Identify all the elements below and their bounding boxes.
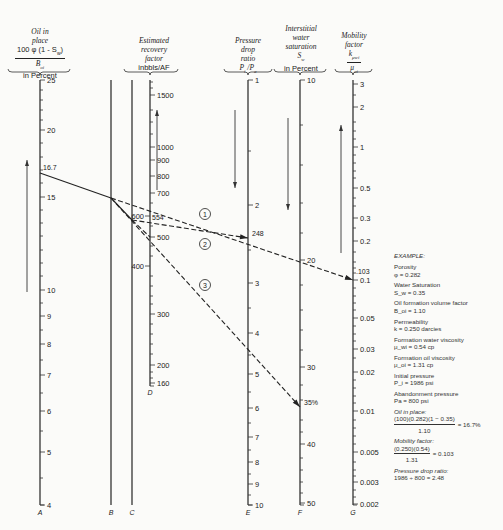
tick-label: 20 [307, 256, 315, 265]
tick-label: 20 [47, 126, 55, 135]
example-item-value: μ_wi = 0.54 cp [394, 343, 502, 350]
tick-label: 1500 [157, 91, 174, 100]
tick-label: 0.2 [360, 237, 370, 246]
tick-label: 4 [255, 329, 259, 338]
example-item-label: Formation oil viscosity [394, 354, 502, 361]
tick-label: 15 [47, 193, 55, 202]
calc-fraction: (100)(0.282)(1 − 0.35) 1.10 [394, 415, 455, 434]
tick-label: 25 [47, 76, 55, 85]
tick-label: 0.02 [360, 368, 375, 377]
tick-label: 5 [255, 370, 259, 379]
tick-label: 1000 [157, 143, 174, 152]
tick-label: 0.5 [360, 184, 370, 193]
calc-fraction: (0.250)(0.54) 1.31 [394, 445, 430, 464]
calc-result: = 16.7% [458, 421, 481, 428]
marked-value-label: .103 [356, 268, 370, 275]
example-item: Porosityφ = 0.282 [394, 263, 502, 278]
tick-label: 0.3 [360, 214, 370, 223]
tick-label: 500 [157, 233, 170, 242]
example-item-value: k = 0.250 darcies [394, 325, 502, 332]
example-title: EXAMPLE: [394, 252, 502, 259]
arrowhead-icon [240, 234, 248, 239]
arrow-down-icon [286, 204, 290, 210]
example-item: Initial pressureP_i = 1986 psi [394, 372, 502, 387]
example-line-3 [111, 198, 300, 407]
marked-value-label: 35% [304, 399, 318, 406]
example-item-value: Pa = 800 psi [394, 397, 502, 404]
tick-label: 900 [157, 156, 170, 165]
tick-label: 800 [157, 172, 170, 181]
axis-letter-d: D [147, 389, 152, 396]
tick-label: 0.01 [360, 407, 375, 416]
tick-label: 0.002 [360, 500, 379, 509]
example-item-label: Porosity [394, 263, 502, 270]
tick-label: 0.05 [360, 314, 375, 323]
pressure-calc: Pressure drop ratio: 1986 ÷ 800 = 2.48 [394, 467, 502, 482]
example-line-1 [111, 198, 353, 280]
axis-letter-b: B [109, 509, 114, 516]
tick-label: 0.005 [360, 448, 379, 457]
calc-value: 1986 ÷ 800 = 2.48 [394, 474, 502, 481]
example-item: Permeabilityk = 0.250 darcies [394, 318, 502, 333]
header-brace [335, 69, 372, 75]
mobility-calc: Mobility factor: (0.250)(0.54) 1.31 = 0.… [394, 437, 502, 463]
calc-label: Mobility factor: [394, 437, 502, 444]
header-braces [8, 69, 372, 75]
header-brace [224, 69, 272, 75]
tick-label: 30 [307, 363, 315, 372]
example-item: Water SaturationS_w = 0.35 [394, 281, 502, 296]
tick-label: 0.03 [360, 345, 375, 354]
example-item-label: Abandonment pressure [394, 390, 502, 397]
marked-value-label: 248 [252, 230, 264, 237]
tick-label: 50 [307, 499, 315, 508]
direction-arrows-group [25, 110, 343, 292]
example-item-value: φ = 0.282 [394, 271, 502, 278]
example-item: Oil formation volume factorB_oi = 1.10 [394, 299, 502, 314]
arrow-up-icon [339, 125, 343, 131]
tick-label: 600 [131, 212, 144, 221]
example-item-label: Initial pressure [394, 372, 502, 379]
example-item-label: Water Saturation [394, 281, 502, 288]
tick-label: 40 [307, 440, 315, 449]
header-brace [274, 69, 326, 75]
calc-label: Pressure drop ratio: [394, 467, 502, 474]
example-item-label: Formation water viscosity [394, 336, 502, 343]
tick-label: 1 [360, 143, 364, 152]
tick-labels-group: 2520151098765416.71500100090080070060050… [43, 76, 379, 510]
arrow-up-icon [155, 110, 159, 116]
example-item: Formation water viscosityμ_wi = 0.54 cp [394, 336, 502, 351]
example-lines-group: 123 [40, 173, 353, 407]
arrow-down-icon [233, 182, 237, 188]
calc-result: = 0.103 [433, 450, 454, 457]
example-item-value: S_w = 0.35 [394, 289, 502, 296]
tick-label: 0.1 [360, 276, 370, 285]
tick-label: 5 [47, 448, 51, 457]
tick-label: 6 [255, 404, 259, 413]
calc-label: Oil in place: [394, 408, 502, 415]
tick-label: 3 [255, 279, 259, 288]
axis-letter-c: C [129, 509, 135, 516]
tick-label: 1 [255, 76, 259, 85]
tick-label: 0.003 [360, 478, 379, 487]
tick-label: 3 [360, 80, 364, 89]
example-items: Porosityφ = 0.282Water SaturationS_w = 0… [394, 263, 502, 404]
tick-label: 10 [255, 501, 263, 510]
arrowhead-icon [345, 275, 353, 280]
axis-letter-g: G [350, 509, 356, 516]
tick-label: 6 [47, 407, 51, 416]
tick-label: 300 [157, 310, 170, 319]
calc-denominator: 1.31 [394, 454, 430, 463]
calc-numerator: (0.250)(0.54) [394, 445, 430, 454]
line-number-label: 1 [203, 211, 207, 218]
tick-label: 400 [131, 262, 144, 271]
example-item: Abandonment pressurePa = 800 psi [394, 390, 502, 405]
tick-label: 9 [47, 312, 51, 321]
example-item-value: P_i = 1986 psi [394, 379, 502, 386]
line-number-label: 2 [203, 241, 207, 248]
example-panel: EXAMPLE: Porosityφ = 0.282Water Saturati… [394, 252, 502, 485]
tick-label: 8 [47, 340, 51, 349]
example-item-label: Permeability [394, 318, 502, 325]
arrow-up-icon [25, 160, 29, 166]
marked-value-label: 16.7 [43, 164, 57, 171]
tick-label: 7 [47, 371, 51, 380]
